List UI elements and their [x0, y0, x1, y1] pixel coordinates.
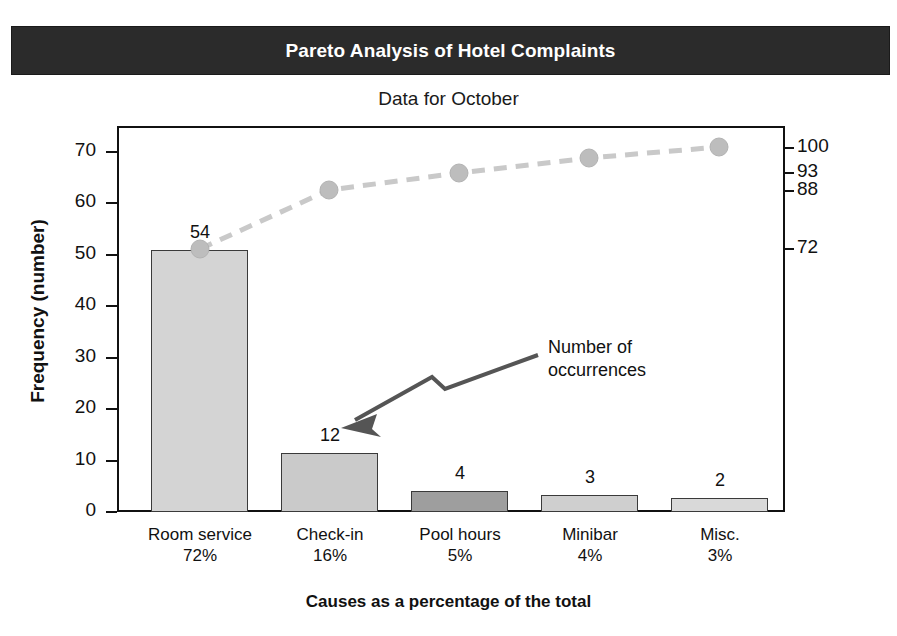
y-tick-label-left-70: 70	[36, 139, 96, 161]
x-category-misc: Misc. 3%	[660, 524, 780, 567]
y-tick-label-right-72: 72	[797, 236, 857, 258]
bar-value-pool-hours: 4	[420, 463, 500, 484]
y-tick-right-93	[783, 172, 794, 174]
annotation-label-line1: Number of	[548, 336, 646, 359]
x-category-pool-hours-percent: 5%	[400, 545, 520, 566]
x-category-pool-hours-name: Pool hours	[400, 524, 520, 545]
y-tick-right-100	[783, 147, 794, 149]
x-category-room-service-percent: 72%	[140, 545, 260, 566]
bar-value-misc: 2	[680, 470, 760, 491]
y-tick-label-left-0: 0	[36, 499, 96, 521]
x-category-check-in-percent: 16%	[270, 545, 390, 566]
pareto-chart: 0 10 20 30 40 50 60 70 72 88 93 100 54 1…	[0, 0, 897, 636]
x-category-minibar: Minibar 4%	[530, 524, 650, 567]
y-tick-left-50	[106, 254, 117, 256]
y-tick-left-70	[106, 151, 117, 153]
x-category-minibar-name: Minibar	[530, 524, 650, 545]
x-category-room-service-name: Room service	[140, 524, 260, 545]
y-tick-label-right-93: 93	[797, 160, 857, 182]
bar-value-minibar: 3	[550, 467, 630, 488]
y-tick-left-10	[106, 460, 117, 462]
x-category-room-service: Room service 72%	[140, 524, 260, 567]
x-axis-label: Causes as a percentage of the total	[0, 592, 897, 612]
y-tick-right-88	[783, 190, 794, 192]
y-tick-right-72	[783, 248, 794, 250]
bar-check-in[interactable]	[281, 453, 378, 512]
y-tick-left-60	[106, 202, 117, 204]
x-category-check-in: Check-in 16%	[270, 524, 390, 567]
annotation-label: Number of occurrences	[548, 336, 646, 383]
y-tick-left-40	[106, 305, 117, 307]
y-tick-left-20	[106, 408, 117, 410]
bar-room-service[interactable]	[151, 250, 248, 512]
y-axis-label-left: Frequency (number)	[27, 181, 49, 441]
x-category-minibar-percent: 4%	[530, 545, 650, 566]
bar-pool-hours[interactable]	[411, 491, 508, 512]
bar-value-check-in: 12	[290, 425, 370, 446]
annotation-label-line2: occurrences	[548, 359, 646, 382]
x-category-pool-hours: Pool hours 5%	[400, 524, 520, 567]
x-category-misc-percent: 3%	[660, 545, 780, 566]
y-tick-label-right-100: 100	[797, 135, 857, 157]
y-tick-left-0	[106, 511, 117, 513]
bar-value-room-service: 54	[160, 222, 240, 243]
x-category-misc-name: Misc.	[660, 524, 780, 545]
bar-misc[interactable]	[671, 498, 768, 512]
x-category-check-in-name: Check-in	[270, 524, 390, 545]
y-tick-left-30	[106, 357, 117, 359]
y-tick-label-left-10: 10	[36, 448, 96, 470]
bar-minibar[interactable]	[541, 495, 638, 512]
